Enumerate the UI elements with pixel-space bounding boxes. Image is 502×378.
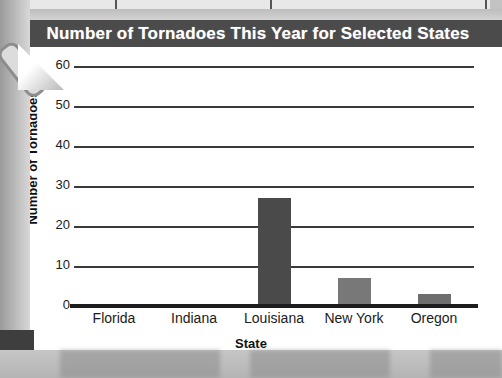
bar-louisiana xyxy=(258,198,291,306)
x-tick-label: Oregon xyxy=(394,310,474,326)
gridline xyxy=(74,146,474,148)
y-tick-label: 10 xyxy=(36,257,70,272)
x-tick-label: New York xyxy=(314,310,394,326)
x-axis-title: State xyxy=(0,336,502,351)
x-tick-label: Louisiana xyxy=(234,310,314,326)
chart-title: Number of Tornadoes This Year for Select… xyxy=(47,24,470,44)
x-axis-line xyxy=(70,304,478,308)
gridline xyxy=(74,106,474,108)
y-tick-label: 0 xyxy=(36,297,70,312)
page-gap xyxy=(0,9,502,20)
page-bottom-shadow xyxy=(0,350,502,378)
table-cell xyxy=(115,0,272,9)
y-tick-label: 30 xyxy=(36,177,70,192)
x-tick-label: Indiana xyxy=(154,310,234,326)
x-axis-tick-labels: FloridaIndianaLouisianaNew YorkOregon xyxy=(74,310,474,332)
gridline xyxy=(74,66,474,68)
table-cell xyxy=(270,0,487,9)
x-tick-label: Florida xyxy=(74,310,154,326)
y-tick-label: 40 xyxy=(36,137,70,152)
y-tick-label: 50 xyxy=(36,97,70,112)
bar-new-york xyxy=(338,278,371,306)
y-tick-label: 20 xyxy=(36,217,70,232)
y-axis-tick-labels: 0102030405060 xyxy=(34,66,70,306)
chart-title-bar: Number of Tornadoes This Year for Select… xyxy=(14,20,502,47)
gridline xyxy=(74,186,474,188)
plot-area xyxy=(74,66,474,306)
